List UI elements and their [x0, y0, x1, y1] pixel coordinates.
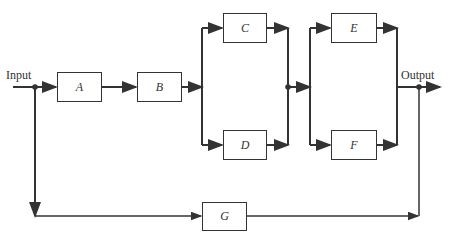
block-a: A [57, 72, 102, 102]
input-junction-dot [32, 84, 38, 90]
block-e: E [331, 13, 377, 43]
block-f: F [331, 130, 377, 160]
cd-junction-dot [285, 84, 291, 90]
block-c: C [223, 13, 267, 43]
block-b: B [137, 72, 182, 102]
block-d: D [223, 130, 267, 160]
output-label: Output [401, 68, 434, 83]
input-label: Input [6, 68, 31, 83]
output-junction-dot [416, 84, 422, 90]
block-g: G [202, 202, 247, 231]
